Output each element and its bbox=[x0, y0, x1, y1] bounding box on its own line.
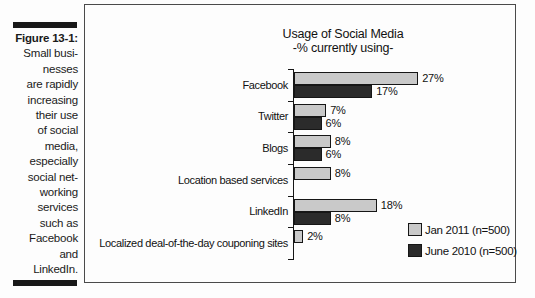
value-label-facebook-june-2010-n-500: 17% bbox=[376, 85, 397, 98]
bar-location-based-services-jan-2011-n-500 bbox=[294, 167, 331, 180]
category-label-linkedin: LinkedIn bbox=[249, 205, 288, 217]
bar-linkedin-jan-2011-n-500 bbox=[294, 199, 377, 212]
bar-row: 18% bbox=[294, 199, 402, 212]
figure-caption-line: social net- bbox=[15, 170, 78, 185]
value-label-facebook-jan-2011-n-500: 27% bbox=[422, 72, 443, 85]
figure-caption-line: services bbox=[15, 200, 78, 215]
chart-frame: Usage of Social Media -% currently using… bbox=[84, 4, 516, 283]
bars-location-based-services: 8% bbox=[294, 167, 350, 193]
legend-label-jan-2011-n-500: Jan 2011 (n=500) bbox=[425, 224, 510, 236]
category-label-blogs: Blogs bbox=[262, 142, 288, 154]
bar-row bbox=[294, 180, 350, 193]
category-label-facebook: Facebook bbox=[242, 79, 288, 91]
category-label-localized-deal-of-the-day-couponing-sites: Localized deal-of-the-day couponing site… bbox=[99, 237, 288, 249]
legend-label-june-2010-n-500: June 2010 (n=500) bbox=[425, 245, 517, 257]
figure-caption-label: Figure 13-1: bbox=[15, 31, 78, 46]
legend: Jan 2011 (n=500)June 2010 (n=500) bbox=[408, 223, 517, 265]
caption-bottom-rule bbox=[13, 280, 77, 286]
bar-facebook-jan-2011-n-500 bbox=[294, 72, 418, 85]
bar-row: 8% bbox=[294, 212, 402, 225]
legend-swatch-jan-2011-n-500 bbox=[408, 223, 422, 236]
value-label-location-based-services-jan-2011-n-500: 8% bbox=[335, 167, 351, 180]
figure-caption-lines: Small busi-nessesare rapidlyincreasingth… bbox=[15, 46, 78, 277]
bar-localized-deal-of-the-day-couponing-sites-jan-2011-n-500 bbox=[294, 230, 303, 243]
axis-tick bbox=[288, 227, 294, 228]
bar-group-location-based-services: Location based services8% bbox=[85, 164, 515, 196]
bar-blogs-jan-2011-n-500 bbox=[294, 135, 331, 148]
figure-caption-line: nesses bbox=[15, 62, 78, 77]
bar-twitter-jan-2011-n-500 bbox=[294, 104, 326, 117]
bars-blogs: 8%6% bbox=[294, 135, 350, 161]
figure-caption-line: especially bbox=[15, 154, 78, 169]
bar-group-blogs: Blogs8%6% bbox=[85, 132, 515, 164]
bar-row: 27% bbox=[294, 72, 444, 85]
bar-group-twitter: Twitter7%6% bbox=[85, 101, 515, 133]
figure-caption-line: Facebook bbox=[15, 231, 78, 246]
bar-row: 6% bbox=[294, 117, 346, 130]
axis-tick bbox=[288, 101, 294, 102]
figure-caption-line: working bbox=[15, 185, 78, 200]
bars-facebook: 27%17% bbox=[294, 72, 444, 98]
axis-tick bbox=[288, 69, 294, 70]
bar-blogs-june-2010-n-500 bbox=[294, 148, 322, 161]
bar-facebook-june-2010-n-500 bbox=[294, 85, 372, 98]
bar-row: 7% bbox=[294, 104, 346, 117]
value-label-twitter-june-2010-n-500: 6% bbox=[326, 117, 342, 130]
figure-caption-line: LinkedIn. bbox=[15, 262, 78, 277]
figure-caption: Figure 13-1: Small busi-nessesare rapidl… bbox=[15, 31, 78, 278]
value-label-linkedin-jan-2011-n-500: 18% bbox=[381, 199, 402, 212]
legend-row-june-2010-n-500: June 2010 (n=500) bbox=[408, 244, 517, 257]
bar-row: 8% bbox=[294, 167, 350, 180]
axis-tick bbox=[288, 196, 294, 197]
figure-caption-line: their use bbox=[15, 108, 78, 123]
value-label-twitter-jan-2011-n-500: 7% bbox=[330, 104, 346, 117]
bar-row: 8% bbox=[294, 135, 350, 148]
axis-tick bbox=[288, 259, 294, 260]
figure-caption-line: Small busi- bbox=[15, 46, 78, 61]
bars-localized-deal-of-the-day-couponing-sites: 2% bbox=[294, 230, 323, 256]
figure-caption-line: increasing bbox=[15, 93, 78, 108]
caption-top-rule bbox=[13, 22, 77, 28]
bar-row: 17% bbox=[294, 85, 444, 98]
value-label-blogs-jan-2011-n-500: 8% bbox=[335, 135, 351, 148]
category-label-twitter: Twitter bbox=[258, 110, 288, 122]
bar-row bbox=[294, 243, 323, 256]
bar-group-facebook: Facebook27%17% bbox=[85, 69, 515, 101]
figure-caption-line: are rapidly bbox=[15, 77, 78, 92]
figure-caption-line: such as bbox=[15, 216, 78, 231]
bar-twitter-june-2010-n-500 bbox=[294, 117, 322, 130]
bar-row: 6% bbox=[294, 148, 350, 161]
bars-linkedin: 18%8% bbox=[294, 199, 402, 225]
figure-caption-line: and bbox=[15, 247, 78, 262]
legend-swatch-june-2010-n-500 bbox=[408, 244, 422, 257]
bar-linkedin-june-2010-n-500 bbox=[294, 212, 331, 225]
bar-row: 2% bbox=[294, 230, 323, 243]
figure-caption-line: media, bbox=[15, 139, 78, 154]
axis-tick bbox=[288, 164, 294, 165]
value-label-localized-deal-of-the-day-couponing-sites-jan-2011-n-500: 2% bbox=[307, 230, 323, 243]
category-label-location-based-services: Location based services bbox=[178, 174, 288, 186]
value-label-blogs-june-2010-n-500: 6% bbox=[326, 148, 342, 161]
figure-caption-line: of social bbox=[15, 123, 78, 138]
value-label-linkedin-june-2010-n-500: 8% bbox=[335, 212, 351, 225]
axis-tick bbox=[288, 132, 294, 133]
bars-twitter: 7%6% bbox=[294, 104, 346, 130]
legend-row-jan-2011-n-500: Jan 2011 (n=500) bbox=[408, 223, 517, 236]
